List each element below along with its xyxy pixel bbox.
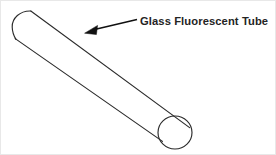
callout-arrow-group [85, 20, 137, 35]
glass-fluorescent-tube-diagram: Glass Fluorescent Tube [0, 0, 276, 155]
tube-group [9, 11, 192, 149]
tube-edge-upper [31, 11, 190, 128]
callout-arrow-head-icon [85, 25, 98, 34]
figure-container: Glass Fluorescent Tube [0, 0, 276, 155]
callout-arrow-shaft [95, 20, 138, 30]
tube-body-fill [9, 11, 190, 148]
callout-label: Glass Fluorescent Tube [140, 15, 268, 27]
